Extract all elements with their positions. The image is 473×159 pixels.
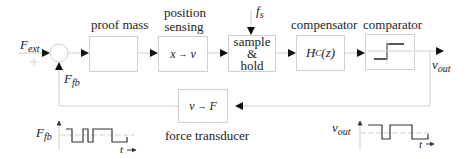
vout-ylabel-sub: out bbox=[338, 126, 351, 137]
output-subscript: out bbox=[438, 63, 451, 74]
ffb-ylabel-sub: fb bbox=[44, 131, 52, 142]
arrow-right-icon: → bbox=[197, 101, 206, 111]
input-label: Fext bbox=[20, 38, 40, 54]
vout-waveform-plot bbox=[360, 121, 434, 150]
compensator-title: compensator bbox=[291, 18, 357, 31]
summing-junction bbox=[50, 44, 68, 62]
sample-rate-label: fs bbox=[256, 4, 264, 20]
sample-hold-block[interactable]: sample & hold bbox=[228, 35, 276, 72]
sample-hold-line3: hold bbox=[240, 60, 263, 72]
force-transducer-title: force transducer bbox=[165, 129, 249, 142]
voltage-v: v bbox=[191, 47, 196, 62]
feedback-subscript: fb bbox=[72, 77, 80, 88]
vout-waveform-ylabel: vout bbox=[332, 121, 351, 137]
proof-mass-block[interactable] bbox=[89, 36, 138, 72]
force-transducer-block[interactable]: v → F bbox=[178, 89, 228, 123]
position-sensing-title-line1: position bbox=[164, 6, 204, 20]
position-sensing-title: position sensing bbox=[164, 6, 204, 34]
comparator-title: comparator bbox=[363, 18, 422, 31]
proof-mass-title: proof mass bbox=[91, 18, 148, 31]
input-symbol: F bbox=[20, 37, 28, 52]
position-sensing-block[interactable]: x → v bbox=[158, 36, 208, 72]
sample-rate-subscript: s bbox=[260, 9, 264, 20]
compensator-block[interactable]: HC(z) bbox=[296, 35, 345, 71]
transducer-v: v bbox=[189, 99, 194, 114]
ffb-waveform-ylabel: Ffb bbox=[36, 126, 52, 142]
transfer-fn-H: H bbox=[306, 45, 315, 61]
comparator-block[interactable] bbox=[365, 34, 415, 70]
vout-waveform-xlabel: t bbox=[419, 139, 422, 150]
input-subscript: ext bbox=[28, 43, 40, 54]
transfer-fn-arg: (z) bbox=[321, 45, 335, 61]
transducer-F: F bbox=[209, 99, 216, 114]
ffb-ylabel-symbol: F bbox=[36, 125, 44, 140]
output-label: vout bbox=[432, 58, 451, 74]
feedback-label: Ffb bbox=[64, 72, 80, 88]
arrow-right-icon: → bbox=[179, 49, 188, 59]
feedback-symbol: F bbox=[64, 71, 72, 86]
ffb-waveform-xlabel: t bbox=[120, 144, 123, 155]
ffb-waveform-plot bbox=[59, 121, 136, 150]
position-sensing-title-line2: sensing bbox=[164, 20, 204, 34]
position-x: x bbox=[170, 47, 175, 62]
